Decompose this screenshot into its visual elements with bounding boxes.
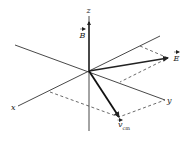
e-vector <box>89 58 168 71</box>
y-axis-label: y <box>166 96 172 105</box>
svg-text:B: B <box>79 31 86 40</box>
svg-text:E: E <box>173 54 180 63</box>
vcm-label: v cm <box>118 120 131 131</box>
vector-diagram: z x y B E v cm <box>0 0 191 141</box>
x-axis-label: x <box>11 103 16 112</box>
z-axis-label: z <box>86 6 92 15</box>
svg-text:cm: cm <box>123 125 131 131</box>
e-label: E <box>173 52 180 63</box>
b-label: B <box>79 29 86 40</box>
